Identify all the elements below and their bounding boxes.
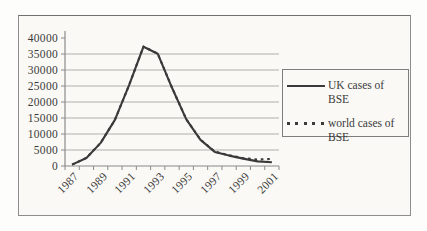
- legend-item-uk: UK cases of BSE: [287, 78, 406, 106]
- legend-label-uk: UK cases of BSE: [328, 78, 406, 106]
- series-line-world: [72, 47, 272, 165]
- chart-outer-border: 0500010000150002000025000300003500040000…: [18, 15, 411, 216]
- solid-line-swatch-icon: [287, 85, 325, 87]
- legend-item-world: world cases of BSE: [287, 116, 406, 144]
- legend-label-world: world cases of BSE: [328, 116, 406, 144]
- series-line-uk: [72, 47, 272, 165]
- legend: UK cases of BSE world cases of BSE: [282, 69, 409, 137]
- dashed-line-swatch-icon: [287, 122, 325, 125]
